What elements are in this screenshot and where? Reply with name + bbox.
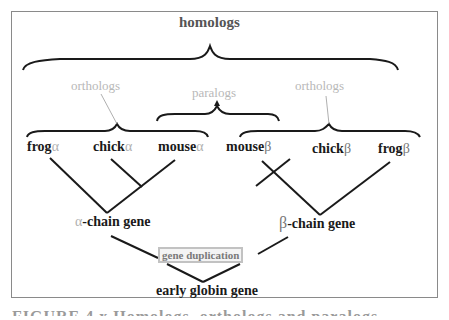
homologs-brace — [23, 46, 398, 70]
leaf-frog-alpha: frogα — [27, 139, 59, 155]
alpha-symbol: α — [52, 139, 59, 154]
beta-symbol: β — [344, 141, 351, 156]
leaf-mouse-alpha: mouseα — [158, 139, 203, 155]
tree-lines — [0, 0, 449, 320]
beta-chain-gene-label: β-chain gene — [279, 214, 355, 232]
gene-duplication-label: gene duplication — [158, 247, 243, 263]
orthologs-right-label: orthologs — [295, 78, 344, 94]
leaf-chick-alpha: chickα — [93, 139, 132, 155]
leaf-chick-beta: chickβ — [312, 141, 351, 157]
beta-symbol: β — [264, 139, 271, 154]
orthologs-left-brace — [27, 124, 208, 137]
paralogs-brace — [157, 106, 279, 121]
paralogs-label: paralogs — [192, 85, 236, 101]
leaf-mouse-beta: mouseβ — [226, 139, 271, 155]
orthologs-left-label: orthologs — [71, 78, 120, 94]
homologs-label: homologs — [179, 14, 240, 31]
root-early-globin-gene: early globin gene — [156, 283, 258, 299]
alpha-symbol: α — [125, 139, 132, 154]
beta-symbol: β — [403, 141, 410, 156]
leaf-frog-beta: frogβ — [378, 141, 410, 157]
orthologs-right-brace — [240, 124, 420, 137]
alpha-chain-gene-label: α-chain gene — [75, 214, 150, 230]
alpha-symbol: α — [196, 139, 203, 154]
